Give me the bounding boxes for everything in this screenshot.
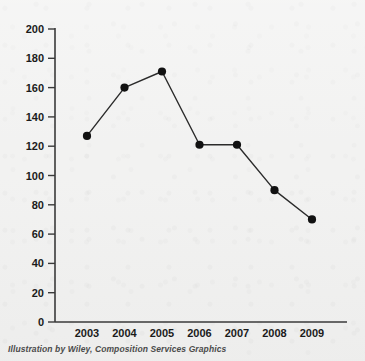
- y-axis-ticks: [48, 29, 55, 322]
- y-tick-label: 100: [26, 170, 44, 182]
- data-point: [120, 84, 128, 92]
- x-tick-label: 2007: [225, 327, 249, 339]
- data-point: [195, 141, 203, 149]
- x-tick-label: 2008: [262, 327, 286, 339]
- data-point: [158, 67, 166, 75]
- y-tick-label: 180: [26, 52, 44, 64]
- figure-caption: Illustration by Wiley, Composition Servi…: [8, 344, 226, 354]
- y-tick-label: 20: [32, 287, 44, 299]
- x-tick-label: 2009: [300, 327, 324, 339]
- x-tick-label: 2006: [187, 327, 211, 339]
- y-tick-label: 200: [26, 23, 44, 35]
- data-point: [308, 215, 316, 223]
- x-tick-label: 2004: [112, 327, 137, 339]
- y-tick-label: 60: [32, 228, 44, 240]
- x-tick-label: 2005: [150, 327, 174, 339]
- y-tick-label: 140: [26, 111, 44, 123]
- data-point: [83, 132, 91, 140]
- y-tick-label: 80: [32, 199, 44, 211]
- y-tick-label: 40: [32, 257, 44, 269]
- y-axis-labels: 020406080100120140160180200: [26, 23, 44, 328]
- x-axis-labels: 2003200420052006200720082009: [75, 327, 324, 339]
- x-tick-label: 2003: [75, 327, 99, 339]
- y-tick-label: 160: [26, 82, 44, 94]
- data-point: [233, 141, 241, 149]
- data-point-markers: [83, 67, 316, 223]
- y-tick-label: 0: [38, 316, 44, 328]
- line-chart: 020406080100120140160180200 200320042005…: [0, 0, 365, 361]
- data-point: [270, 186, 278, 194]
- chart-page: 020406080100120140160180200 200320042005…: [0, 0, 365, 361]
- y-tick-label: 120: [26, 140, 44, 152]
